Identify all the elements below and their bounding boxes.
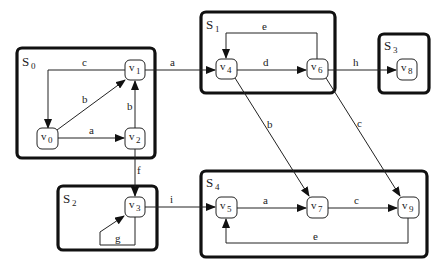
svg-text:0: 0 — [31, 61, 36, 71]
svg-text:v: v — [129, 130, 135, 142]
svg-text:a: a — [263, 194, 268, 206]
edge-v0-v2: a — [58, 124, 124, 138]
svg-text:f: f — [137, 164, 141, 176]
group-label: S — [384, 38, 391, 53]
svg-text:i: i — [170, 193, 173, 205]
state-diagram: S 0 S 1 S 2 S 3 S 4 c b a b — [0, 0, 445, 269]
edge-v5-v7: a — [237, 194, 306, 208]
svg-text:v: v — [129, 61, 135, 73]
edge-v4-v6: d — [237, 56, 306, 70]
svg-text:3: 3 — [136, 203, 141, 213]
svg-text:a: a — [89, 124, 94, 136]
node-v3[interactable]: v 3 — [125, 197, 145, 217]
node-v6[interactable]: v 6 — [307, 59, 328, 79]
edge-v4-v7: b — [235, 78, 309, 196]
edge-v0-v1: b — [57, 80, 125, 130]
edge-v3-v3: g — [100, 216, 135, 245]
group-label: S — [22, 54, 29, 69]
svg-text:2: 2 — [72, 198, 77, 208]
svg-text:c: c — [357, 117, 362, 129]
edge-v7-v9: c — [328, 194, 397, 208]
node-v9[interactable]: v 9 — [398, 197, 419, 218]
svg-text:v: v — [311, 199, 317, 211]
svg-text:b: b — [267, 118, 273, 130]
node-v2[interactable]: v 2 — [125, 128, 145, 149]
edge-v2-v3: f — [135, 149, 141, 196]
svg-text:v: v — [311, 60, 317, 72]
edge-v6-v9: c — [326, 78, 400, 196]
svg-text:v: v — [41, 130, 47, 142]
svg-text:b: b — [127, 100, 133, 112]
node-v7[interactable]: v 7 — [307, 197, 328, 218]
group-s1: S 1 — [201, 12, 335, 93]
svg-text:1: 1 — [136, 66, 141, 76]
svg-text:g: g — [115, 232, 121, 244]
group-s2: S 2 — [58, 186, 157, 250]
node-v0[interactable]: v 0 — [37, 128, 58, 149]
svg-text:v: v — [401, 61, 407, 73]
svg-text:v: v — [129, 198, 135, 210]
svg-text:1: 1 — [215, 24, 220, 34]
svg-text:v: v — [220, 60, 226, 72]
svg-text:c: c — [354, 194, 359, 206]
edge-v1-v0: c — [48, 56, 125, 128]
edge-v6-v8: h — [328, 56, 396, 70]
svg-text:b: b — [82, 93, 88, 105]
group-label: S — [206, 17, 213, 32]
svg-text:v: v — [220, 199, 226, 211]
group-label: S — [206, 175, 213, 190]
svg-text:e: e — [313, 230, 318, 242]
svg-text:2: 2 — [136, 135, 141, 145]
svg-text:4: 4 — [227, 65, 232, 75]
svg-text:5: 5 — [227, 204, 232, 214]
svg-text:c: c — [82, 56, 87, 68]
svg-text:4: 4 — [215, 182, 220, 192]
group-label: S — [63, 191, 70, 206]
svg-text:e: e — [262, 20, 267, 32]
edge-v9-v5: e — [226, 218, 408, 243]
svg-text:9: 9 — [409, 204, 414, 214]
node-v8[interactable]: v 8 — [397, 59, 417, 80]
svg-text:v: v — [402, 199, 408, 211]
svg-text:a: a — [170, 56, 175, 68]
svg-text:3: 3 — [393, 45, 398, 55]
svg-text:8: 8 — [408, 66, 413, 76]
svg-text:6: 6 — [318, 65, 323, 75]
node-v1[interactable]: v 1 — [125, 60, 145, 80]
edge-v6-v4: e — [226, 20, 317, 59]
svg-text:0: 0 — [48, 135, 53, 145]
svg-text:d: d — [263, 56, 269, 68]
svg-text:7: 7 — [318, 204, 323, 214]
node-v4[interactable]: v 4 — [216, 59, 237, 79]
node-v5[interactable]: v 5 — [216, 197, 237, 218]
svg-text:h: h — [353, 56, 359, 68]
edge-v2-v1: b — [127, 81, 135, 128]
